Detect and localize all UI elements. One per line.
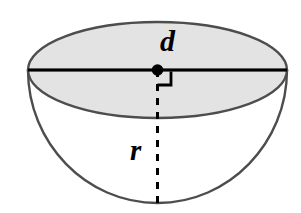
center-dot (152, 64, 164, 76)
radius-label: r (130, 136, 141, 165)
diameter-label: d (160, 26, 175, 56)
hemisphere-svg (0, 0, 301, 213)
top-ellipse-face (28, 22, 287, 70)
hemisphere-figure: d r (0, 0, 301, 213)
